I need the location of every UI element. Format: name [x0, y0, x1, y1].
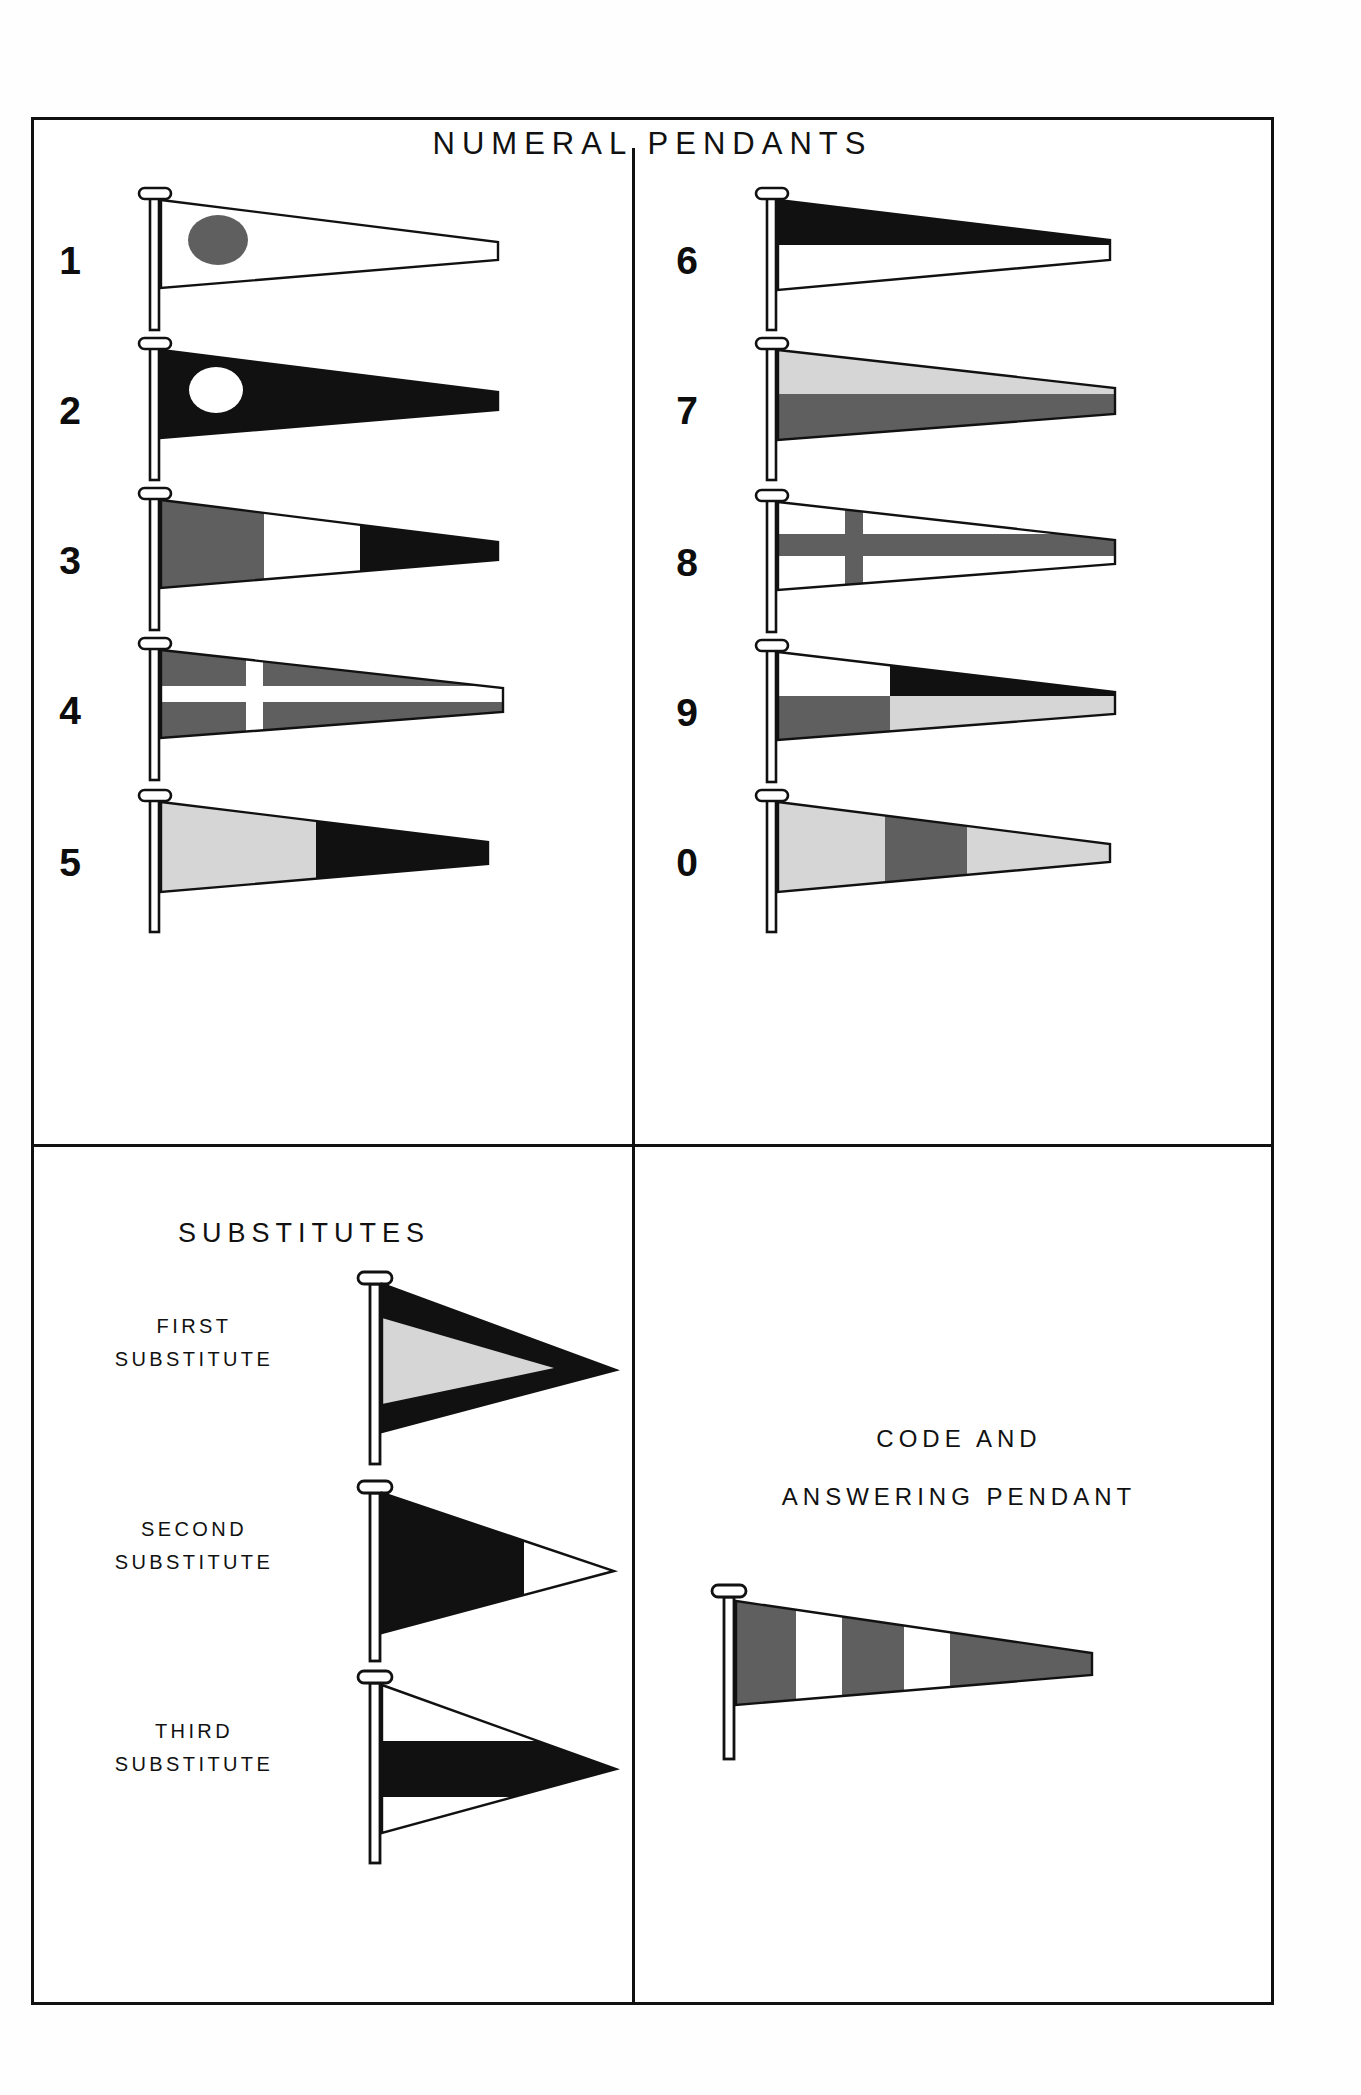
pendant-four [98, 630, 518, 790]
pendant-label-3: 3 [42, 541, 98, 580]
pendant-row-2: 2 [42, 330, 518, 490]
code-and-answering-pendant [694, 1575, 1134, 1785]
divider-vertical-top [632, 148, 635, 1148]
pendant-zero [715, 782, 1135, 942]
pendant-one [98, 180, 518, 340]
code-pendant-title-line1: CODE AND [654, 1410, 1264, 1468]
pendant-eight [715, 482, 1135, 642]
pendant-label-2: 2 [42, 391, 98, 430]
first-substitute-label-line2: SUBSTITUTE [64, 1343, 324, 1376]
pendant-row-6: 6 [659, 180, 1135, 340]
pendant-label-7: 7 [659, 391, 715, 430]
pendant-label-4: 4 [42, 691, 98, 730]
second-substitute-label: SECOND SUBSTITUTE [64, 1513, 324, 1579]
pendant-nine [715, 632, 1135, 792]
second-substitute [344, 1475, 694, 1675]
pendant-row-7: 7 [659, 330, 1135, 490]
pendant-row-9: 9 [659, 632, 1135, 792]
first-substitute-label: FIRST SUBSTITUTE [64, 1310, 324, 1376]
third-substitute-label-line2: SUBSTITUTE [64, 1748, 324, 1781]
pendant-label-6: 6 [659, 241, 715, 280]
pendant-row-4: 4 [42, 630, 518, 790]
first-substitute [344, 1262, 694, 1482]
pendant-row-0: 0 [659, 782, 1135, 942]
pendant-row-3: 3 [42, 480, 518, 640]
pendant-six [715, 180, 1135, 340]
pendant-label-9: 9 [659, 693, 715, 732]
divider-horizontal [34, 1144, 1271, 1147]
pendant-seven [715, 330, 1135, 490]
third-substitute [344, 1665, 694, 1880]
second-substitute-label-line1: SECOND [64, 1513, 324, 1546]
pendant-three [98, 480, 518, 640]
chart-frame: NUMERAL PENDANTS 1 [31, 117, 1274, 2005]
flag-chart-page: NUMERAL PENDANTS 1 [0, 0, 1361, 2095]
pendant-five [98, 782, 518, 942]
second-substitute-label-line2: SUBSTITUTE [64, 1546, 324, 1579]
code-pendant-title: CODE AND ANSWERING PENDANT [654, 1410, 1264, 1526]
substitutes-title: SUBSTITUTES [94, 1218, 514, 1249]
pendant-label-5: 5 [42, 843, 98, 882]
pendant-label-0: 0 [659, 843, 715, 882]
pendant-row-8: 8 [659, 482, 1135, 642]
page-title: NUMERAL PENDANTS [34, 126, 1271, 162]
first-substitute-label-line1: FIRST [64, 1310, 324, 1343]
pendant-label-8: 8 [659, 543, 715, 582]
pendant-two [98, 330, 518, 490]
pendant-label-1: 1 [42, 241, 98, 280]
third-substitute-label: THIRD SUBSTITUTE [64, 1715, 324, 1781]
code-pendant-title-line2: ANSWERING PENDANT [654, 1468, 1264, 1526]
pendant-row-1: 1 [42, 180, 518, 340]
pendant-row-5: 5 [42, 782, 518, 942]
third-substitute-label-line1: THIRD [64, 1715, 324, 1748]
